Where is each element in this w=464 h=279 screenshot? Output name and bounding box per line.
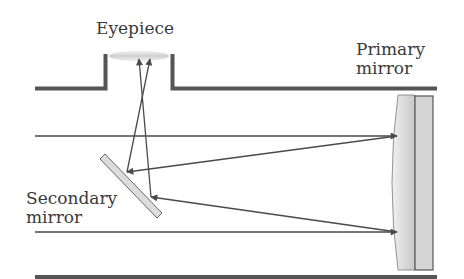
primary-mirror [392,95,415,270]
reflected-ray-top [127,136,397,172]
primary-mirror-label-line2: mirror [356,59,425,78]
eyepiece-ray-right [139,59,151,197]
secondary-mirror-label-line1: Secondary [26,189,117,208]
primary-mirror-backing [415,96,433,270]
primary-mirror-label-line1: Primary [356,40,425,59]
secondary-mirror-label-line2: mirror [26,208,117,227]
eyepiece-ray-left [127,59,150,172]
tube-bottom-wall [35,275,437,279]
eyepiece-label: Eyepiece [96,19,174,38]
reflected-ray-bottom [151,197,397,232]
secondary-mirror-label: Secondary mirror [26,189,117,227]
primary-mirror-label: Primary mirror [356,40,425,78]
